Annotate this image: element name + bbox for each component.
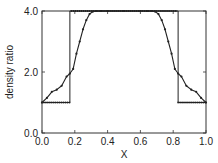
y-tick-label: 4.0: [24, 6, 38, 17]
axis-ticks: 0.00.20.40.60.81.00.02.04.0: [24, 6, 213, 147]
y-axis-label: density ratio: [4, 45, 15, 99]
x-tick-label: 0.8: [166, 136, 180, 147]
x-tick-label: 0.6: [133, 136, 147, 147]
x-tick-label: 0.4: [101, 136, 115, 147]
y-tick-label: 0.0: [24, 128, 38, 139]
chart: 0.00.20.40.60.81.00.02.04.0 X density ra…: [0, 0, 218, 163]
plot-frame: [42, 11, 206, 133]
exact-solution-line: [42, 11, 206, 103]
plot-border: [42, 11, 206, 133]
series-layer: [41, 10, 207, 104]
x-tick-label: 1.0: [199, 136, 213, 147]
reference-markers: [41, 10, 206, 103]
x-axis-label: X: [121, 149, 128, 160]
numerical-solution-line: [42, 11, 206, 103]
y-tick-label: 2.0: [24, 67, 38, 78]
x-tick-label: 0.2: [68, 136, 82, 147]
numerical-markers: [41, 10, 207, 104]
